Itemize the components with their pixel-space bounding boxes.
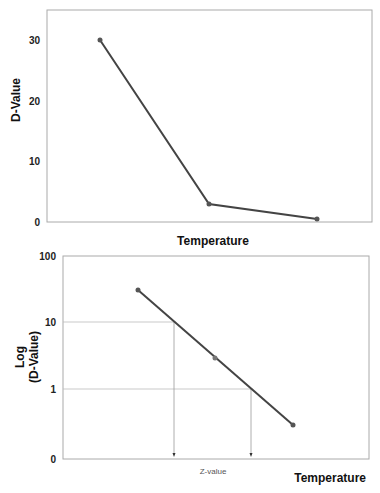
top-ytick-30: 30 — [29, 35, 41, 46]
arrowhead-right-icon — [250, 453, 253, 457]
arrowhead-left-icon — [173, 453, 176, 457]
top-data-line — [100, 40, 317, 219]
top-x-axis-label: Temperature — [177, 234, 249, 248]
bottom-ytick-10: 10 — [45, 317, 57, 328]
bottom-point-3 — [291, 423, 296, 428]
bottom-x-axis-label: Temperature — [294, 471, 366, 485]
top-point-3 — [315, 217, 320, 222]
bottom-ytick-1: 1 — [50, 384, 56, 395]
figure: 30 20 10 0 D-Value Temperature 100 10 1 … — [0, 0, 380, 493]
top-ytick-0: 0 — [34, 217, 40, 228]
bottom-chart: 100 10 1 0 Log (D-Value) Temperature Z-v… — [13, 251, 369, 485]
bottom-point-2 — [213, 356, 218, 361]
bottom-ytick-100: 100 — [39, 251, 56, 262]
bottom-ytick-0: 0 — [50, 454, 56, 465]
top-y-axis-label: D-Value — [9, 78, 23, 122]
bottom-point-1 — [136, 288, 141, 293]
top-point-1 — [98, 38, 103, 43]
top-ytick-20: 20 — [29, 96, 41, 107]
top-plot-area — [47, 10, 372, 222]
bottom-y-axis-label-line1: Log — [13, 346, 27, 368]
bottom-y-axis-label-line2: (D-Value) — [27, 331, 41, 383]
top-ytick-10: 10 — [29, 156, 41, 167]
top-point-2 — [207, 202, 212, 207]
top-chart: 30 20 10 0 D-Value Temperature — [9, 10, 372, 248]
z-value-annotation: Z-value — [200, 467, 227, 476]
